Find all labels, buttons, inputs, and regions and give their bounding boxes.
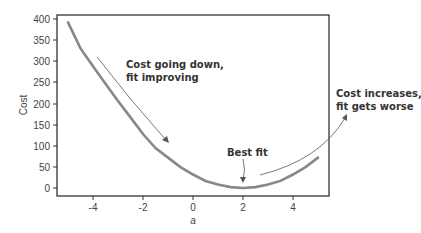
- y-axis-label: Cost: [18, 94, 29, 115]
- y-tick-label: 50: [39, 162, 51, 173]
- x-axis-label: a: [190, 215, 196, 226]
- y-tick-label: 400: [33, 14, 50, 25]
- arrow-head-icon: [342, 114, 347, 121]
- annotation-text: Cost increases,: [336, 88, 421, 99]
- y-axis: 0 50 100 150 200 250 300 350 400 Cost: [18, 14, 57, 194]
- annotation-cost-increases: Cost increases, fit gets worse: [260, 88, 421, 175]
- y-tick-label: 200: [33, 99, 50, 110]
- x-tick-label: 4: [290, 202, 296, 213]
- annotation-best-fit: Best fit: [227, 147, 268, 183]
- annotation-text: Cost going down,: [126, 59, 224, 70]
- y-tick-label: 0: [44, 183, 50, 194]
- cost-curve: [68, 22, 318, 188]
- x-axis: -4 -2 0 2 4 a: [89, 196, 297, 226]
- annotation-text: Best fit: [227, 147, 268, 158]
- y-tick-label: 250: [33, 77, 50, 88]
- y-tick-label: 350: [33, 35, 50, 46]
- y-tick-label: 150: [33, 120, 50, 131]
- plot-frame: [57, 15, 329, 196]
- x-tick-label: -4: [89, 202, 98, 213]
- x-tick-label: 2: [240, 202, 246, 213]
- y-tick-label: 100: [33, 141, 50, 152]
- arrow-head-icon: [240, 177, 246, 183]
- x-tick-label: -2: [139, 202, 148, 213]
- y-tick-label: 300: [33, 56, 50, 67]
- annotation-text: fit improving: [126, 72, 199, 83]
- cost-chart: 0 50 100 150 200 250 300 350 400 Cost -4…: [0, 0, 421, 233]
- annotation-text: fit gets worse: [336, 101, 414, 112]
- x-tick-label: 0: [190, 202, 196, 213]
